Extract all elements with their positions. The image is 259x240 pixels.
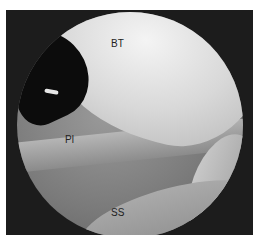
arthroscopic-view <box>17 12 243 235</box>
label-pl: Pl <box>65 134 74 145</box>
instrument-glint <box>44 88 58 94</box>
image-frame: BT Pl SS <box>6 10 253 235</box>
label-bt: BT <box>111 38 124 49</box>
label-ss: SS <box>111 207 124 218</box>
